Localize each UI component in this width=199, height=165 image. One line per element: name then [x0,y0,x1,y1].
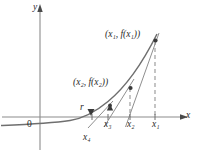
label-origin: 0 [27,120,32,130]
label-x-axis: x [186,111,190,121]
label-point-x2: (x₂, f(x₂)) [73,78,108,88]
label-x3: x₃ [104,120,112,130]
newtons-method-figure: (x₁, f(x₁)) (x₂, f(x₂)) r x₁ x₂ x₃ x₄ 0 … [0,0,199,165]
label-x1: x₁ [152,120,160,130]
point-marker-x2 [128,86,132,90]
label-root-r: r [80,103,84,113]
tangent-line-x1 [126,33,160,127]
label-point-x1: (x₁, f(x₁)) [105,30,140,40]
label-x2: x₂ [127,120,135,130]
y-axis-arrowhead [37,4,42,12]
y-axis [37,4,42,150]
label-x4: x₄ [83,133,91,143]
point-marker-x1 [153,38,157,42]
label-y-axis: y [33,3,37,13]
